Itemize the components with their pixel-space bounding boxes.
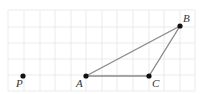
point-dot bbox=[83, 73, 88, 78]
point-b: B bbox=[177, 12, 190, 29]
grid bbox=[8, 10, 195, 91]
point-dot bbox=[146, 73, 151, 78]
geometry-diagram: PACB bbox=[0, 0, 200, 94]
point-dot bbox=[177, 23, 182, 28]
point-label: A bbox=[75, 77, 83, 89]
point-label: P bbox=[15, 77, 23, 89]
point-label: C bbox=[152, 77, 160, 89]
point-a: A bbox=[75, 73, 89, 89]
point-label: B bbox=[183, 12, 190, 24]
point-c: C bbox=[146, 73, 160, 89]
